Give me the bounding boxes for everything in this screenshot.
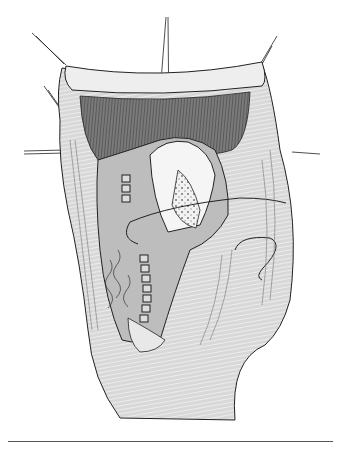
horizontal-rule xyxy=(8,441,333,442)
cartilage-frame xyxy=(65,62,265,93)
surgical-illustration xyxy=(0,0,339,450)
